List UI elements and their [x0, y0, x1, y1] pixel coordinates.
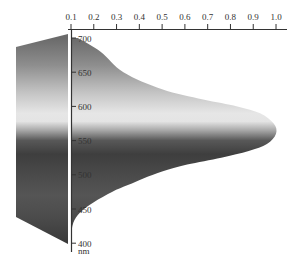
spectrum-panel: [16, 34, 68, 244]
x-tick-label: 0.7: [202, 12, 214, 22]
y-tick-label: 450: [78, 205, 92, 215]
x-tick-label: 0.9: [248, 12, 260, 22]
axis-divider: [68, 30, 71, 248]
sensitivity-curve: [71, 38, 277, 243]
x-tick-label: 0.3: [111, 12, 123, 22]
y-unit-label: nm: [78, 246, 90, 256]
y-tick-label: 700: [78, 34, 92, 44]
x-tick-label: 0.6: [179, 12, 191, 22]
x-axis-top: 0.10.20.30.40.50.60.70.80.91.0: [65, 12, 287, 30]
x-tick-label: 0.8: [225, 12, 237, 22]
y-tick-label: 500: [78, 170, 92, 180]
x-tick-label: 0.2: [88, 12, 99, 22]
x-tick-label: 1.0: [270, 12, 282, 22]
x-tick-label: 0.5: [156, 12, 168, 22]
sensitivity-curve-area: [71, 38, 277, 243]
y-tick-label: 600: [78, 102, 92, 112]
x-tick-label: 0.1: [65, 12, 76, 22]
y-tick-label: 650: [78, 68, 92, 78]
x-tick-label: 0.4: [134, 12, 146, 22]
spectrum-band: [16, 34, 68, 244]
sensitivity-chart: 0.10.20.30.40.50.60.70.80.91.0 700650600…: [0, 0, 297, 272]
y-tick-label: 550: [78, 136, 92, 146]
